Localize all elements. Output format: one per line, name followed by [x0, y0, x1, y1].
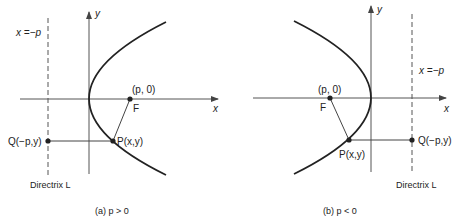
figure-caption: (a) p > 0: [95, 206, 129, 216]
point-p: [110, 138, 115, 143]
figure-caption: (b) p < 0: [323, 206, 357, 216]
focus-coordinate-label: (p, 0): [132, 84, 155, 95]
focus-to-point-segment: [113, 99, 130, 141]
focus-point: [327, 95, 332, 100]
focus-to-point-segment: [330, 98, 349, 140]
x-axis-label: x: [212, 103, 219, 114]
directrix-label: Directrix L: [30, 180, 71, 190]
point-q: [409, 137, 414, 142]
x-axis-label: x: [443, 103, 450, 114]
directrix-label: Directrix L: [396, 180, 437, 190]
y-axis-label: y: [94, 8, 101, 19]
focus-label: F: [320, 102, 326, 113]
focus-coordinate-label: (p, 0): [318, 84, 341, 95]
point-p-label: P(x,y): [339, 149, 365, 160]
point-p: [346, 137, 351, 142]
point-q-label: Q(−p,y): [8, 136, 42, 147]
directrix-equation: x =−p: [15, 27, 41, 38]
figure-b: y x x =−p (p, 0) F P(x,y) Q(−p,y) Direct…: [253, 4, 452, 216]
y-axis-label: y: [376, 4, 383, 15]
parabola-diagrams: y x x =−p (p, 0) F P(x,y) Q(−p,y) Direct…: [0, 0, 457, 223]
point-p-label: P(x,y): [117, 136, 143, 147]
focus-point: [127, 96, 132, 101]
focus-label: F: [133, 103, 139, 114]
point-q-label: Q(−p,y): [418, 135, 452, 146]
directrix-equation: x =−p: [418, 65, 444, 76]
figure-a: y x x =−p (p, 0) F P(x,y) Q(−p,y) Direct…: [8, 8, 219, 216]
point-q: [45, 138, 50, 143]
